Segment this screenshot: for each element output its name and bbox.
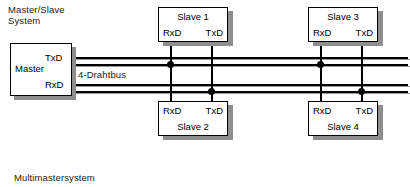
bus-line-3-shadow [72, 86, 410, 88]
bus-line-2 [70, 64, 408, 66]
slave-1-port-txd: TxD [206, 27, 223, 38]
master-label: Master [11, 63, 75, 74]
diagram-title-master-slave: Master/Slave System [8, 4, 65, 26]
slave-1-rxd-junction [167, 61, 174, 68]
bus-line-1 [70, 57, 408, 59]
slave-2-txd-junction [208, 88, 215, 95]
slave-4-label: Slave 4 [309, 121, 377, 132]
slave-4-port-rxd: RxD [313, 105, 331, 116]
slave-3-port-txd: TxD [356, 27, 373, 38]
bus-line-2-shadow [72, 66, 410, 68]
slave-2-label: Slave 2 [159, 121, 227, 132]
diagram-title-multimaster: Multimastersystem [14, 172, 95, 183]
diagram-canvas: Master/Slave System Multimastersystem 4-… [0, 0, 410, 187]
slave-3-label: Slave 3 [309, 11, 377, 22]
slave-2-port-rxd: RxD [163, 105, 181, 116]
slave-2-port-txd: TxD [206, 105, 223, 116]
slave-1-label: Slave 1 [159, 11, 227, 22]
slave-1-port-rxd: RxD [163, 27, 181, 38]
bus-line-3 [70, 84, 408, 86]
slave-3-node[interactable]: Slave 3 RxD TxD [308, 7, 378, 42]
slave-3-rxd-junction [317, 61, 324, 68]
slave-1-node[interactable]: Slave 1 RxD TxD [158, 7, 228, 42]
slave-3-port-rxd: RxD [313, 27, 331, 38]
slave-4-node[interactable]: RxD TxD Slave 4 [308, 101, 378, 136]
bus-label: 4-Drahtbus [76, 69, 128, 80]
master-port-rxd: RxD [45, 79, 63, 90]
slave-4-port-txd: TxD [356, 105, 373, 116]
slave-4-txd-junction [358, 88, 365, 95]
bus-line-1-shadow [72, 59, 410, 61]
master-port-txd: TxD [45, 52, 62, 63]
slave-2-node[interactable]: RxD TxD Slave 2 [158, 101, 228, 136]
